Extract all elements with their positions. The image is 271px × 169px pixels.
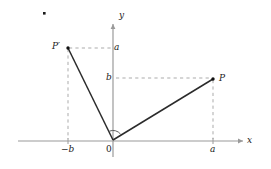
- y-axis-arrowhead: [111, 24, 116, 29]
- point-label-p-prime: P′: [52, 42, 60, 51]
- tick-label-x-negative-b: −b: [61, 145, 74, 154]
- point-marker-p-prime: [66, 46, 69, 49]
- tick-label-y-b: b: [106, 73, 112, 82]
- y-axis-label: y: [119, 11, 124, 20]
- tick-label-x-a: a: [210, 145, 215, 154]
- point-label-p-base: P: [219, 73, 225, 83]
- diagram-svg: [0, 0, 271, 169]
- point-marker-p: [211, 77, 214, 80]
- figure-canvas: y x 0 −b a a b P′ P: [0, 0, 271, 169]
- segment-origin-to-p: [113, 79, 213, 140]
- x-axis-arrowhead: [238, 139, 243, 144]
- tick-label-y-a: a: [114, 43, 119, 52]
- segment-origin-to-p-prime: [68, 48, 113, 140]
- x-axis-label: x: [247, 136, 252, 145]
- point-label-p: P: [219, 74, 225, 83]
- stray-dot-icon: [43, 12, 46, 15]
- point-label-p-prime-mark: ′: [58, 41, 60, 51]
- origin-label: 0: [106, 145, 112, 154]
- right-angle-arc-icon: [109, 130, 120, 134]
